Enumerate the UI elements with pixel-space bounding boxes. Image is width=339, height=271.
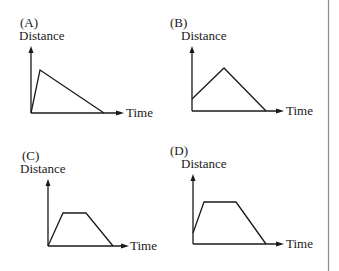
- graph-d-x-arrow-icon: [276, 242, 284, 247]
- graph-c-x-axis-label: Time: [130, 238, 157, 253]
- graph-b-line: [192, 68, 266, 111]
- graph-c: (C) Distance Time: [20, 148, 157, 253]
- graph-c-line: [48, 213, 113, 246]
- graph-c-y-axis-label: Distance: [20, 161, 66, 176]
- graph-b-y-axis-label: Distance: [181, 28, 227, 43]
- graph-a-line: [31, 70, 104, 113]
- graph-c-y-arrow-icon: [46, 179, 51, 186]
- graph-d-y-arrow-icon: [191, 174, 196, 181]
- graph-c-x-arrow-icon: [121, 244, 129, 249]
- graph-a-x-arrow-icon: [116, 111, 124, 116]
- graph-d-y-axis-label: Distance: [181, 156, 227, 171]
- figure-canvas: (A) Distance Time (B) Distance Time (C) …: [0, 0, 339, 271]
- graph-b-x-arrow-icon: [276, 109, 284, 114]
- graph-b-y-arrow-icon: [190, 46, 195, 53]
- graph-d-x-axis-label: Time: [286, 236, 313, 251]
- graph-a-y-axis-label: Distance: [19, 28, 65, 43]
- graph-d-line: [193, 202, 266, 244]
- graph-d: (D) Distance Time: [170, 143, 313, 251]
- graph-a-y-arrow-icon: [29, 46, 34, 53]
- graph-a-x-axis-label: Time: [126, 105, 153, 120]
- graph-b-x-axis-label: Time: [286, 103, 313, 118]
- graph-a: (A) Distance Time: [19, 15, 153, 120]
- graph-b: (B) Distance Time: [170, 15, 313, 118]
